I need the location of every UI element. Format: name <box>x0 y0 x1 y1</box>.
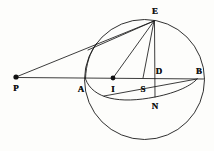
PB-axis <box>16 78 204 80</box>
point-dot-i <box>111 76 116 81</box>
segments-group <box>16 21 204 97</box>
point-label-n: N <box>152 102 159 111</box>
point-label-b: B <box>196 67 202 76</box>
main-circle <box>85 20 205 140</box>
point-label-i: I <box>111 85 115 94</box>
geometry-figure: PAISDBEN <box>0 0 214 151</box>
point-label-d: D <box>156 67 163 76</box>
PE <box>16 21 154 77</box>
EN <box>155 21 156 97</box>
point-dot-p <box>13 74 18 79</box>
E-chord <box>88 21 154 50</box>
circles-group <box>85 20 205 140</box>
B-chord <box>104 79 197 96</box>
point-label-a: A <box>78 85 85 94</box>
ES <box>143 21 154 78</box>
point-label-p: P <box>13 84 19 93</box>
figure-canvas <box>0 0 214 151</box>
point-label-s: S <box>140 85 145 94</box>
point-label-e: E <box>152 7 158 16</box>
